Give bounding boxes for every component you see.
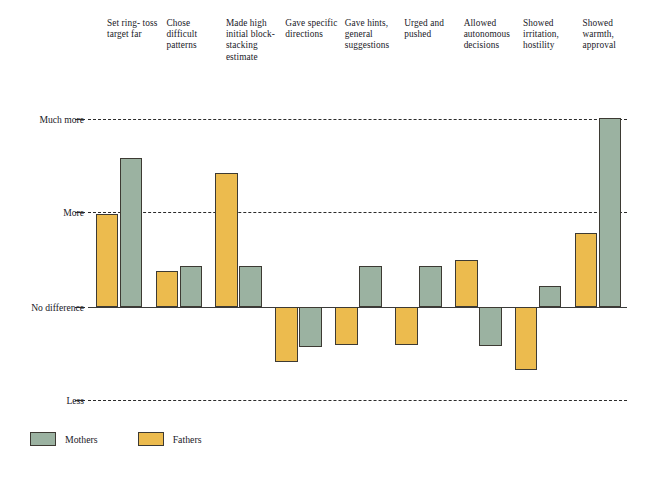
bar-fathers-6 [455,260,478,307]
bar-mothers-3 [299,307,322,347]
bar-mothers-1 [180,266,203,307]
column-header-1: Chose difficult patterns [166,18,220,52]
bar-fathers-1 [156,271,179,307]
column-header-3: Gave specific directions [285,18,339,40]
bar-group [156,110,203,405]
bar-group [455,110,502,405]
legend-item-mothers: Mothers [30,432,98,446]
y-axis-labels: Much more More No difference Less [0,110,84,405]
bar-group [515,110,562,405]
legend-item-fathers: Fathers [138,432,202,446]
chart-container: Set ring- toss target far Chose difficul… [0,0,645,481]
column-header-8: Showed warmth, approval [583,18,637,52]
column-header-7: Showed irritation, hostility [523,18,577,52]
bar-fathers-3 [275,307,298,362]
bar-mothers-2 [239,266,262,307]
bar-mothers-8 [599,118,622,307]
legend-swatch-mothers [30,432,56,446]
plot-area [88,110,627,405]
legend-label-mothers: Mothers [65,434,98,445]
bar-fathers-8 [575,233,598,307]
bar-group [575,110,622,405]
column-header-0: Set ring- toss target far [107,18,161,40]
bar-fathers-5 [395,307,418,345]
bar-group [215,110,262,405]
bar-fathers-0 [96,214,119,307]
column-header-row: Set ring- toss target far Chose difficul… [107,18,637,106]
legend-label-fathers: Fathers [173,434,202,445]
bar-fathers-2 [215,173,238,307]
bar-group [275,110,322,405]
legend-swatch-fathers [138,432,164,446]
bars-layer [88,110,627,405]
bar-group [96,110,143,405]
column-header-5: Urged and pushed [404,18,458,40]
bar-group [335,110,382,405]
bar-mothers-0 [120,158,143,307]
bar-fathers-7 [515,307,538,370]
bar-mothers-6 [479,307,502,346]
column-header-4: Gave hints, general suggestions [345,18,399,52]
chart-legend: Mothers Fathers [30,432,242,446]
bar-group [395,110,442,405]
column-header-6: Allowed autonomous decisions [464,18,518,52]
bar-mothers-7 [539,286,562,307]
column-header-2: Made high initial block- stacking estima… [226,18,280,63]
bar-mothers-4 [359,266,382,307]
bar-mothers-5 [419,266,442,307]
bar-fathers-4 [335,307,358,345]
